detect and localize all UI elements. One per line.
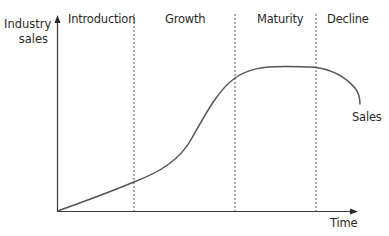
product-life-cycle-diagram: Industry sales Introduction Growth Matur… bbox=[0, 0, 389, 236]
diagram-canvas bbox=[0, 0, 389, 236]
stage-label-decline: Decline bbox=[327, 12, 369, 26]
sales-curve bbox=[58, 67, 361, 212]
stage-label-maturity: Maturity bbox=[257, 12, 303, 26]
stage-label-growth: Growth bbox=[165, 12, 205, 26]
y-axis-label-line2: sales bbox=[4, 32, 48, 47]
x-axis-arrow-icon bbox=[350, 209, 358, 215]
y-axis-label-line1: Industry bbox=[4, 17, 48, 32]
y-axis-label: Industry sales bbox=[4, 17, 48, 47]
curve-label-sales: Sales bbox=[352, 110, 382, 124]
y-axis-arrow-icon bbox=[55, 15, 61, 23]
stage-label-introduction: Introduction bbox=[68, 12, 135, 26]
x-axis-label: Time bbox=[330, 216, 357, 230]
